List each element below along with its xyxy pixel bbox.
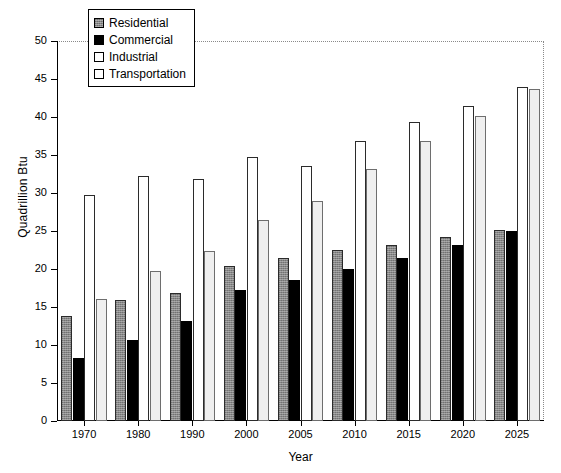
- bar: [386, 245, 397, 421]
- bar: [247, 157, 258, 421]
- y-tick-label: 0: [41, 414, 47, 426]
- legend-swatch-commercial: [94, 35, 104, 45]
- y-tick-label: 35: [35, 148, 47, 160]
- legend-item-commercial[interactable]: Commercial: [94, 31, 186, 48]
- bar: [494, 230, 505, 421]
- bar: [193, 179, 204, 421]
- bar: [96, 299, 107, 421]
- bar: [475, 116, 486, 421]
- x-tick-label: 2010: [342, 428, 366, 440]
- plot-frame-right: [543, 41, 544, 421]
- x-tick-label: 2020: [451, 428, 475, 440]
- y-tick: 45: [51, 79, 57, 80]
- bar: [366, 169, 377, 421]
- y-tick-label: 5: [41, 376, 47, 388]
- y-tick-label: 15: [35, 300, 47, 312]
- y-tick: 10: [51, 345, 57, 346]
- x-tick-label: 2000: [234, 428, 258, 440]
- bar: [420, 141, 431, 421]
- bar: [440, 237, 451, 421]
- legend-item-industrial[interactable]: Industrial: [94, 48, 186, 65]
- y-tick: 0: [51, 421, 57, 422]
- x-tick: [517, 421, 518, 426]
- legend-label-commercial: Commercial: [109, 33, 173, 47]
- y-tick-label: 10: [35, 338, 47, 350]
- y-tick: 25: [51, 231, 57, 232]
- legend-swatch-residential: [94, 18, 104, 28]
- legend-swatch-industrial: [94, 52, 104, 62]
- bar: [61, 316, 72, 421]
- bar: [506, 231, 517, 421]
- y-tick-label: 30: [35, 186, 47, 198]
- legend-label-residential: Residential: [109, 16, 168, 30]
- y-tick: 35: [51, 155, 57, 156]
- bar: [397, 258, 408, 421]
- bar: [517, 87, 528, 421]
- legend-label-transportation: Transportation: [109, 67, 186, 81]
- bar: [170, 293, 181, 421]
- x-tick-label: 1970: [72, 428, 96, 440]
- legend-item-transportation[interactable]: Transportation: [94, 65, 186, 82]
- bar: [181, 321, 192, 421]
- bar: [343, 269, 354, 421]
- x-tick: [301, 421, 302, 426]
- y-tick-label: 50: [35, 34, 47, 46]
- bar: [355, 141, 366, 421]
- bar: [452, 245, 463, 421]
- bar-chart: Quadrillion Btu 05101520253035404550 197…: [0, 0, 561, 473]
- bar: [529, 89, 540, 421]
- bar: [235, 290, 246, 421]
- x-tick: [192, 421, 193, 426]
- y-tick-label: 25: [35, 224, 47, 236]
- x-tick: [409, 421, 410, 426]
- x-tick: [84, 421, 85, 426]
- bar: [301, 166, 312, 421]
- plot-area: 05101520253035404550 1970198019902000200…: [57, 41, 544, 421]
- bar: [312, 201, 323, 421]
- y-tick: 5: [51, 383, 57, 384]
- bar: [278, 258, 289, 421]
- bar: [150, 271, 161, 421]
- bar: [138, 176, 149, 421]
- y-axis-line: [57, 41, 58, 421]
- y-tick-label: 40: [35, 110, 47, 122]
- y-tick: 15: [51, 307, 57, 308]
- legend-swatch-transportation: [94, 69, 104, 79]
- y-tick-label: 20: [35, 262, 47, 274]
- x-tick: [355, 421, 356, 426]
- bar: [127, 340, 138, 421]
- y-axis-title: Quadrillion Btu: [16, 127, 30, 267]
- chart-legend: Residential Commercial Industrial Transp…: [88, 9, 195, 87]
- x-tick: [463, 421, 464, 426]
- x-axis-title: Year: [57, 450, 544, 464]
- bar: [258, 220, 269, 421]
- y-tick: 40: [51, 117, 57, 118]
- bar: [463, 106, 474, 421]
- x-tick: [246, 421, 247, 426]
- x-tick-label: 2015: [396, 428, 420, 440]
- bar: [73, 358, 84, 421]
- y-tick: 50: [51, 41, 57, 42]
- bar: [84, 195, 95, 421]
- legend-label-industrial: Industrial: [109, 50, 158, 64]
- y-tick-label: 45: [35, 72, 47, 84]
- bar: [332, 250, 343, 421]
- x-tick-label: 2005: [288, 428, 312, 440]
- x-tick: [138, 421, 139, 426]
- bar: [115, 300, 126, 421]
- bar: [289, 280, 300, 421]
- bar: [204, 251, 215, 421]
- bar: [224, 266, 235, 421]
- legend-item-residential[interactable]: Residential: [94, 14, 186, 31]
- x-tick-label: 1980: [126, 428, 150, 440]
- y-tick: 30: [51, 193, 57, 194]
- bar: [409, 122, 420, 421]
- x-tick-label: 2025: [505, 428, 529, 440]
- y-tick: 20: [51, 269, 57, 270]
- x-tick-label: 1990: [180, 428, 204, 440]
